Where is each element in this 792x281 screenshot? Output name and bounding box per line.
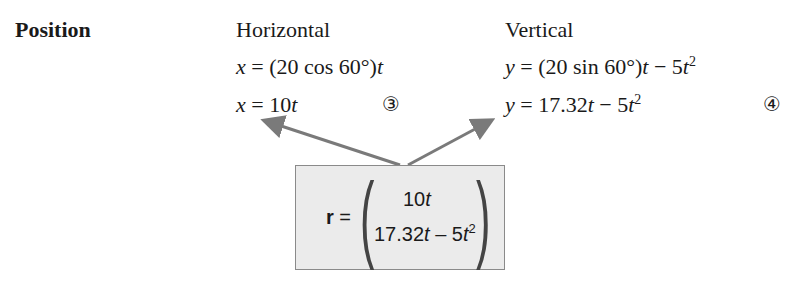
vector-symbol: r =	[326, 206, 351, 229]
vector-row-2: 17.32t – 5t2	[374, 221, 476, 246]
vector-row-1: 10t	[403, 188, 431, 211]
right-paren: )	[476, 162, 490, 272]
arrow-to-horizontal	[266, 121, 400, 165]
arrow-to-vertical	[408, 121, 490, 165]
position-vector-box: r = ( 10t 17.32t – 5t2 )	[295, 165, 505, 270]
left-paren: (	[360, 162, 374, 272]
